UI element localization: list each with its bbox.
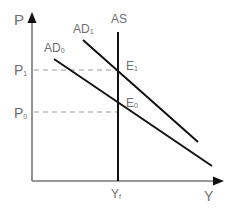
- ad0-curve: [54, 59, 212, 166]
- p0-label: P0: [14, 105, 27, 121]
- e1-label: E1: [126, 59, 138, 73]
- p1-label: P1: [14, 62, 27, 78]
- yf-label: Yf: [111, 187, 121, 201]
- ad0-label: AD0: [44, 41, 65, 55]
- ad-as-diagram: P Y P1 P0 AS AD0 AD1 E1 E0 Yf: [0, 0, 232, 213]
- as-label: AS: [111, 12, 127, 26]
- y-axis-label: P: [14, 11, 24, 28]
- ad1-label: AD1: [73, 22, 94, 36]
- y-axis-arrow-icon: [28, 12, 37, 23]
- x-axis-arrow-icon: [213, 177, 224, 186]
- x-axis-label: Y: [204, 188, 214, 204]
- e0-label: E0: [126, 96, 138, 110]
